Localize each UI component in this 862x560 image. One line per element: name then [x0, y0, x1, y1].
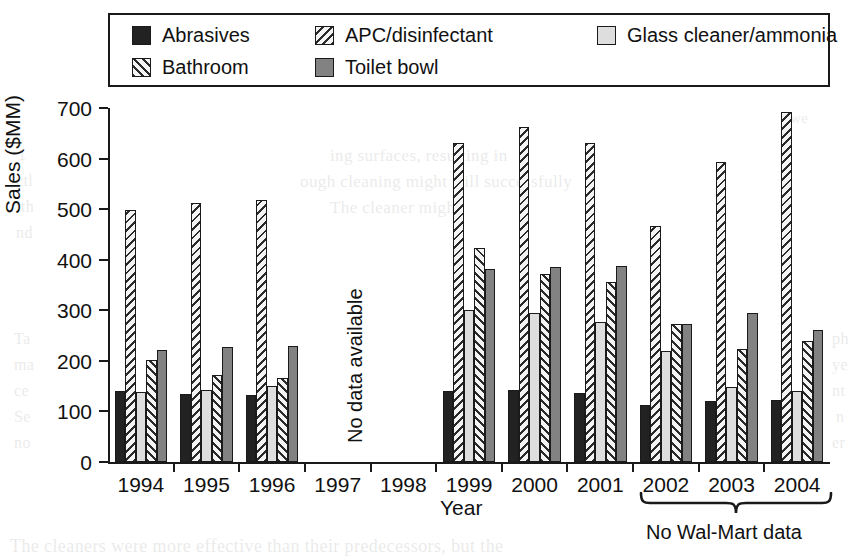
bar-2001-abrasives — [574, 393, 585, 462]
x-axis-title: Year — [440, 497, 482, 518]
y-tick-300 — [99, 309, 108, 311]
bar-1994-glass-cleaner-ammonia — [136, 392, 147, 462]
x-axis-label-1998: 1998 — [380, 474, 427, 495]
y-tick-label-700: 700 — [57, 98, 92, 119]
bar-1995-toilet-bowl — [222, 347, 233, 462]
x-axis-label-2001: 2001 — [577, 474, 624, 495]
bar-1999-toilet-bowl — [485, 269, 496, 462]
y-tick-label-0: 0 — [80, 452, 92, 473]
legend-label-bathroom: Bathroom — [162, 57, 249, 77]
bar-1999-abrasives — [443, 391, 454, 462]
no-walmart-data-brace-icon — [638, 492, 834, 514]
x-tick-2000 — [501, 464, 503, 472]
annotation-no-data-available: No data available — [345, 288, 365, 443]
y-tick-label-400: 400 — [57, 249, 92, 270]
y-tick-100 — [99, 410, 108, 412]
x-tick-1996 — [238, 464, 240, 472]
bar-2002-glass-cleaner-ammonia — [661, 351, 672, 462]
y-tick-0 — [99, 461, 108, 463]
bar-2002-apc-disinfectant — [650, 226, 661, 462]
bar-2004-abrasives — [771, 400, 782, 462]
y-axis-line — [108, 108, 110, 462]
bar-1995-apc-disinfectant — [191, 203, 202, 462]
bar-1996-bathroom — [277, 378, 288, 462]
x-tick-1995 — [173, 464, 175, 472]
legend-item-apc-disinfectant: APC/disinfectant — [315, 20, 493, 50]
chart-legend: Abrasives APC/disinfectant Glass cleaner… — [108, 13, 830, 87]
legend-row-2: Bathroom Toilet bowl — [110, 52, 828, 82]
bar-1999-bathroom — [474, 248, 485, 462]
bar-1996-apc-disinfectant — [256, 200, 267, 462]
bar-2000-abrasives — [508, 390, 519, 462]
bar-chart-figure: Abrasives APC/disinfectant Glass cleaner… — [0, 0, 862, 560]
bar-2001-bathroom — [606, 282, 617, 462]
y-tick-label-300: 300 — [57, 300, 92, 321]
bar-2000-glass-cleaner-ammonia — [529, 313, 540, 462]
legend-label-abrasives: Abrasives — [162, 25, 250, 45]
bar-2003-abrasives — [705, 401, 716, 462]
legend-swatch-apc-disinfectant — [315, 26, 334, 45]
x-axis-label-1997: 1997 — [314, 474, 361, 495]
bar-2003-toilet-bowl — [747, 313, 758, 462]
x-tick-2004 — [763, 464, 765, 472]
bar-1994-abrasives — [115, 391, 126, 462]
bar-2000-apc-disinfectant — [519, 127, 530, 462]
bar-1996-glass-cleaner-ammonia — [267, 386, 278, 462]
x-tick-2001 — [566, 464, 568, 472]
legend-item-bathroom: Bathroom — [132, 52, 249, 82]
legend-swatch-glass-cleaner — [597, 26, 616, 45]
legend-label-toilet-bowl: Toilet bowl — [345, 57, 438, 77]
legend-item-glass-cleaner: Glass cleaner/ammonia — [597, 20, 837, 50]
bar-2001-apc-disinfectant — [585, 143, 596, 462]
bar-2004-apc-disinfectant — [781, 112, 792, 462]
legend-label-glass-cleaner: Glass cleaner/ammonia — [627, 25, 837, 45]
bar-1999-glass-cleaner-ammonia — [464, 310, 475, 462]
bar-1995-glass-cleaner-ammonia — [201, 390, 212, 462]
bar-1996-abrasives — [246, 395, 257, 462]
bar-1994-toilet-bowl — [157, 350, 168, 462]
y-axis-title: Sales ($MM) — [2, 95, 23, 214]
bar-2001-glass-cleaner-ammonia — [595, 322, 606, 462]
bar-2004-glass-cleaner-ammonia — [792, 391, 803, 462]
x-axis-label-2000: 2000 — [511, 474, 558, 495]
x-tick-2003 — [698, 464, 700, 472]
y-tick-200 — [99, 360, 108, 362]
y-tick-label-500: 500 — [57, 199, 92, 220]
y-tick-500 — [99, 208, 108, 210]
y-tick-label-600: 600 — [57, 148, 92, 169]
bar-2004-toilet-bowl — [813, 330, 824, 462]
legend-row-1: Abrasives APC/disinfectant Glass cleaner… — [110, 20, 828, 50]
bar-2003-bathroom — [737, 349, 748, 462]
legend-item-toilet-bowl: Toilet bowl — [315, 52, 438, 82]
x-tick-2002 — [632, 464, 634, 472]
bar-2002-bathroom — [671, 324, 682, 462]
y-tick-600 — [99, 158, 108, 160]
legend-swatch-abrasives — [132, 26, 151, 45]
bar-1994-apc-disinfectant — [125, 210, 136, 462]
y-tick-700 — [99, 107, 108, 109]
x-axis-label-1995: 1995 — [183, 474, 230, 495]
legend-swatch-bathroom — [132, 58, 151, 77]
y-tick-label-200: 200 — [57, 350, 92, 371]
bar-1999-apc-disinfectant — [453, 143, 464, 462]
bar-2004-bathroom — [802, 341, 813, 462]
bar-2000-bathroom — [540, 274, 551, 462]
x-axis-label-1996: 1996 — [249, 474, 296, 495]
x-tick-1999 — [435, 464, 437, 472]
y-tick-400 — [99, 259, 108, 261]
legend-item-abrasives: Abrasives — [132, 20, 250, 50]
x-axis-label-1994: 1994 — [117, 474, 164, 495]
x-tick-1997 — [304, 464, 306, 472]
bar-2003-apc-disinfectant — [716, 162, 727, 462]
legend-swatch-toilet-bowl — [315, 58, 334, 77]
bar-2001-toilet-bowl — [616, 266, 627, 462]
bar-2000-toilet-bowl — [550, 267, 561, 462]
bar-1995-bathroom — [212, 375, 223, 462]
bar-1995-abrasives — [180, 394, 191, 462]
annotation-no-walmart-data: No Wal-Mart data — [646, 522, 802, 542]
x-axis-label-1999: 1999 — [446, 474, 493, 495]
x-tick-1998 — [370, 464, 372, 472]
plot-area: 0100200300400500600700 19941995199619971… — [108, 108, 830, 462]
bar-1994-bathroom — [146, 360, 157, 462]
bar-2002-abrasives — [640, 405, 651, 462]
